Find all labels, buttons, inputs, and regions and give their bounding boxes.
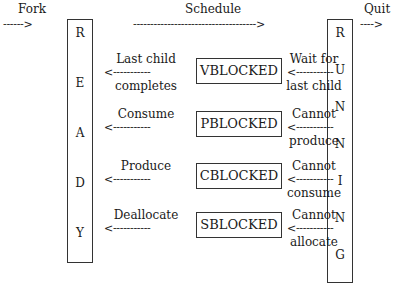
quit-label: Quit [364, 3, 390, 16]
transition-label: Cannot [284, 108, 344, 121]
ready-state-box: R E A D Y [67, 19, 93, 263]
transition-arrow: <----------- [104, 223, 151, 235]
transition-label: Cannot [284, 209, 344, 222]
transition-arrow: <----------- [104, 67, 151, 79]
transition-label: produce [284, 135, 344, 148]
transition-label: Cannot [284, 160, 344, 173]
sblocked-state-box: SBLOCKED [196, 212, 282, 238]
transition-arrow: <----------- [287, 67, 334, 79]
transition-label: allocate [284, 236, 344, 249]
transition-label: Consume [104, 108, 188, 121]
quit-arrow: ----> [360, 19, 383, 31]
schedule-arrow: ------------------------------------> [133, 19, 265, 31]
transition-label: Deallocate [104, 209, 188, 222]
fork-label: Fork [18, 3, 46, 16]
transition-arrow: <----------- [104, 122, 151, 134]
ready-letter: E [68, 76, 92, 90]
transition-arrow: <----------- [104, 174, 151, 186]
schedule-label: Schedule [185, 3, 241, 16]
ready-letter: Y [68, 226, 92, 240]
vblocked-state-box: VBLOCKED [196, 58, 282, 84]
transition-label: last child [284, 80, 344, 93]
transition-label: consume [284, 187, 344, 200]
ready-letter: R [68, 26, 92, 40]
ready-letter: A [68, 126, 92, 140]
transition-label: Produce [104, 160, 188, 173]
fork-arrow: ------> [3, 19, 32, 31]
transition-label: Last child [104, 53, 188, 66]
cblocked-state-box: CBLOCKED [196, 163, 282, 189]
transition-label: Wait for [284, 53, 344, 66]
transition-label: completes [104, 80, 188, 93]
running-letter: G [328, 248, 352, 262]
transition-arrow: <----------- [287, 174, 334, 186]
running-letter: R [328, 26, 352, 40]
pblocked-state-box: PBLOCKED [196, 111, 282, 137]
transition-arrow: <----------- [287, 223, 334, 235]
ready-letter: D [68, 176, 92, 190]
transition-arrow: <----------- [287, 122, 334, 134]
